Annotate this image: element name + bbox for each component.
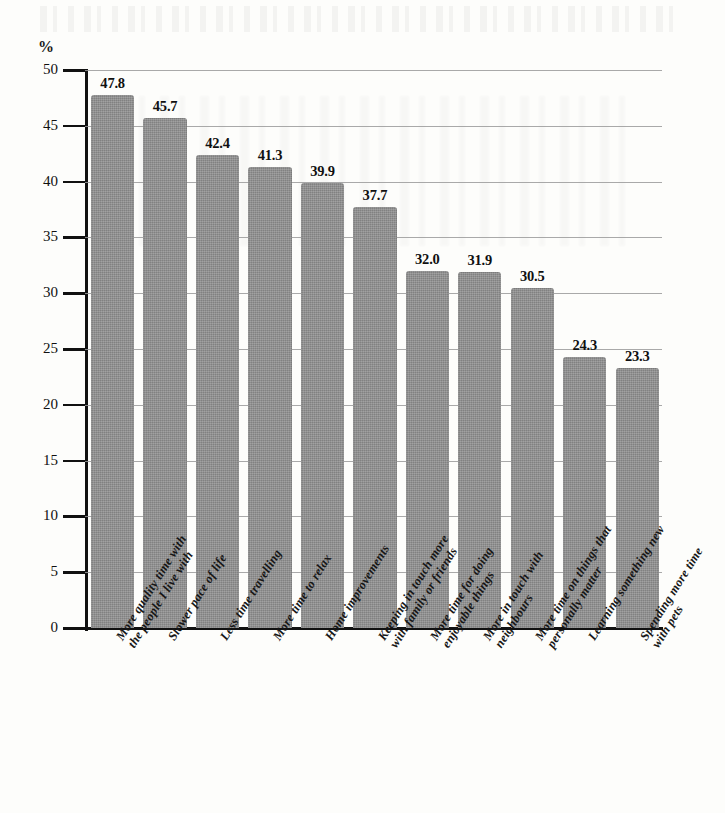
y-axis-tick-mark <box>63 404 86 407</box>
bar-value-label: 37.7 <box>349 187 400 204</box>
bar-value-label: 45.7 <box>139 98 190 115</box>
bar-chart: % 50454035302520151050 47.845.742.441.33… <box>0 0 725 813</box>
bar-value-label: 42.4 <box>192 135 243 152</box>
y-axis-tick-label: 25 <box>28 341 58 356</box>
bar-value-label: 32.0 <box>402 251 453 268</box>
y-axis-tick-label-wrap: 50 <box>0 62 58 77</box>
y-axis-tick-mark <box>63 181 86 184</box>
bar-value-label: 47.8 <box>87 75 138 92</box>
y-axis-tick-label-wrap: 30 <box>0 285 58 300</box>
y-axis-tick-label: 50 <box>28 62 58 77</box>
bar-value-label: 24.3 <box>559 337 610 354</box>
bar-value-label: 39.9 <box>297 163 348 180</box>
y-axis-tick-mark <box>63 236 86 239</box>
y-axis-tick-mark <box>63 515 86 518</box>
y-axis-tick-mark <box>63 292 86 295</box>
y-axis-tick-label: 30 <box>28 285 58 300</box>
y-axis-tick-label: 15 <box>28 453 58 468</box>
bar-value-label: 30.5 <box>507 268 558 285</box>
y-axis-tick-label-wrap: 35 <box>0 229 58 244</box>
bar[interactable] <box>91 95 134 628</box>
bar-value-label: 41.3 <box>244 147 295 164</box>
y-axis-tick-mark <box>63 627 86 630</box>
bar-value-label: 23.3 <box>612 348 663 365</box>
y-axis-tick-label-wrap: 40 <box>0 174 58 189</box>
y-axis-tick-label-wrap: 5 <box>0 564 58 579</box>
y-axis-tick-label: 10 <box>28 508 58 523</box>
y-axis-tick-label: 45 <box>28 118 58 133</box>
gridline <box>85 70 662 71</box>
y-axis-tick-label: 40 <box>28 174 58 189</box>
y-axis-unit-label: % <box>38 38 54 56</box>
y-axis-tick-label: 0 <box>28 620 58 635</box>
y-axis-tick-label-wrap: 20 <box>0 397 58 412</box>
y-axis-tick-mark <box>63 348 86 351</box>
y-axis-tick-mark <box>63 460 86 463</box>
y-axis-tick-label: 20 <box>28 397 58 412</box>
y-axis-tick-mark <box>63 571 86 574</box>
y-axis-tick-label-wrap: 45 <box>0 118 58 133</box>
y-axis-tick-mark <box>63 125 86 128</box>
y-axis-tick-label-wrap: 0 <box>0 620 58 635</box>
y-axis-tick-label: 5 <box>28 564 58 579</box>
y-axis-tick-label: 35 <box>28 229 58 244</box>
y-axis-tick-label-wrap: 25 <box>0 341 58 356</box>
y-axis-tick-label-wrap: 15 <box>0 453 58 468</box>
y-axis-tick-label-wrap: 10 <box>0 508 58 523</box>
bar-value-label: 31.9 <box>454 252 505 269</box>
y-axis-tick-mark <box>63 69 86 72</box>
